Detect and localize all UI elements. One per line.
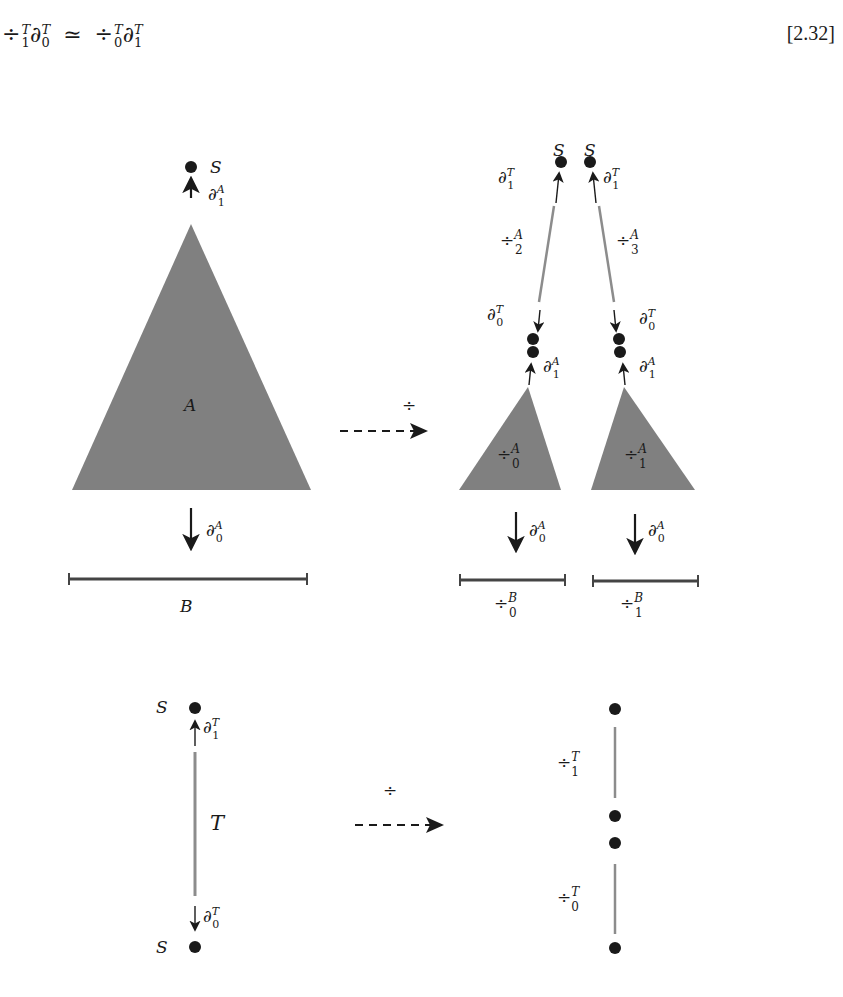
boundary-label: ∂T1 [203, 716, 221, 742]
segment-label: ÷A2 [500, 228, 523, 257]
point-s-label: S [156, 937, 168, 957]
boundary-label: ∂A1 [208, 183, 225, 209]
boundary-label: ∂A1 [639, 355, 656, 381]
point [614, 346, 626, 358]
point [527, 346, 539, 358]
triangle-part-0 [459, 387, 561, 490]
base-part-1 [593, 575, 698, 587]
boundary-arrow-up [593, 174, 596, 203]
top-left-tree: S ∂A1 A ∂A0 B [69, 157, 311, 616]
top-right-decomposition: S ∂T1 ÷A2 ∂T0 ∂A1 ÷A0 ∂A0 ÷B0 S ∂T1 ÷A3 … [459, 140, 698, 620]
bottom-transform-arrow: ÷ [355, 780, 440, 825]
point [609, 810, 621, 822]
segment [539, 206, 554, 302]
boundary-label: ∂A1 [543, 355, 560, 381]
point-s [189, 941, 201, 953]
divide-label: ÷ [383, 780, 397, 800]
boundary-label: ∂T0 [487, 303, 505, 329]
divide-label: ÷ [402, 395, 416, 415]
base-label: ÷B0 [494, 591, 517, 620]
triangle-a-label: A [182, 395, 196, 415]
diagram-canvas: S ∂A1 A ∂A0 B ÷ S ∂T1 ÷A2 ∂T0 ∂A1 ÷A0 [0, 0, 843, 997]
point [609, 942, 621, 954]
boundary-arrow-up [556, 174, 559, 203]
base-part-0 [460, 574, 565, 586]
point-s [189, 702, 201, 714]
boundary-label: ∂T1 [603, 166, 621, 192]
boundary-arrow-down [614, 310, 616, 330]
point [527, 333, 539, 345]
point-s [185, 161, 197, 173]
boundary-label: ∂T1 [498, 166, 516, 192]
boundary-label: ∂A0 [529, 519, 546, 545]
point [609, 703, 621, 715]
top-transform-arrow: ÷ [340, 395, 424, 431]
segment-label: ÷T0 [557, 885, 580, 914]
point [609, 837, 621, 849]
triangle-a [72, 224, 311, 490]
boundary-arrow-down [538, 310, 540, 330]
base-label: ÷B1 [620, 591, 643, 620]
point [584, 156, 596, 168]
segment [599, 206, 614, 302]
point-s [555, 156, 567, 168]
boundary-label: ∂T0 [639, 307, 657, 333]
boundary-arrow-up [529, 365, 531, 385]
segment-label: ÷T1 [557, 750, 580, 779]
point [613, 333, 625, 345]
point-s-label: S [156, 697, 168, 717]
base-b [69, 573, 307, 585]
segment-label: ÷A3 [616, 228, 639, 257]
base-b-label: B [179, 596, 193, 616]
point-s-label: S [210, 157, 222, 177]
boundary-arrow-up [623, 365, 625, 385]
segment-t-label: T [210, 811, 226, 835]
triangle-part-1 [591, 387, 695, 490]
boundary-label: ∂A0 [206, 519, 223, 545]
bottom-left-segment: S ∂T1 T ∂T0 S [156, 697, 226, 957]
bottom-right-split: ÷T1 ÷T0 [557, 703, 621, 954]
boundary-label: ∂A0 [648, 519, 665, 545]
boundary-label: ∂T0 [203, 905, 221, 931]
